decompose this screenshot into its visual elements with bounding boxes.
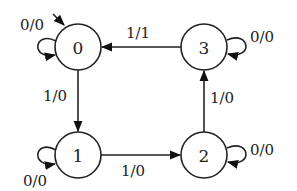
state-node-1: 1 xyxy=(55,132,101,178)
state-diagram: 0 3 1 2 0/0 1/0 0/0 1/0 0/0 1/0 0/0 1/1 xyxy=(0,0,297,191)
state-label-1: 1 xyxy=(73,146,84,166)
state-label-0: 0 xyxy=(73,38,84,58)
self-loop-1 xyxy=(38,147,56,164)
self-loop-0 xyxy=(38,39,56,56)
state-label-3: 3 xyxy=(199,38,210,58)
state-label-2: 2 xyxy=(199,146,210,166)
self-loop-3 xyxy=(227,38,246,55)
edge-label-1-2: 1/0 xyxy=(121,162,145,180)
state-node-3: 3 xyxy=(181,24,227,70)
edge-label-3-0: 1/1 xyxy=(126,24,150,42)
self-loop-2 xyxy=(227,146,246,163)
initial-state-arrow xyxy=(53,14,64,25)
state-node-2: 2 xyxy=(181,132,227,178)
state-node-0: 0 xyxy=(55,24,101,70)
edge-label-1-1: 0/0 xyxy=(23,172,47,190)
edge-label-0-1: 1/0 xyxy=(43,87,67,105)
edge-label-2-3: 1/0 xyxy=(210,89,234,107)
edge-label-0-0: 0/0 xyxy=(20,16,44,34)
edge-label-2-2: 0/0 xyxy=(250,141,274,159)
edge-label-3-3: 0/0 xyxy=(250,28,274,46)
